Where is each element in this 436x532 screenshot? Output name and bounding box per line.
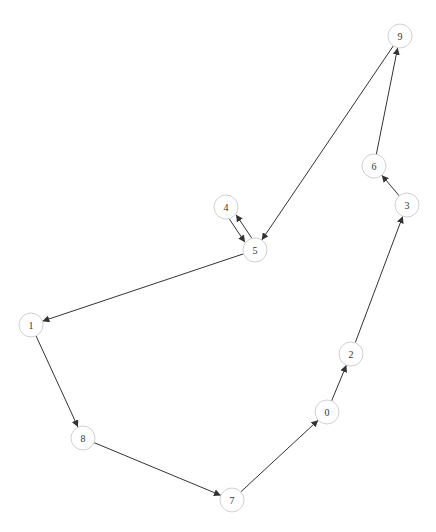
edge-5-to-1 xyxy=(42,254,243,321)
node-9: 9 xyxy=(388,24,412,48)
edge-4-to-5 xyxy=(229,219,245,242)
node-label: 3 xyxy=(405,200,410,211)
node-1: 1 xyxy=(19,313,43,337)
node-2: 2 xyxy=(339,342,363,366)
node-label: 7 xyxy=(230,495,235,506)
node-label: 2 xyxy=(349,349,354,360)
edge-9-to-5 xyxy=(262,46,394,240)
node-6: 6 xyxy=(362,154,386,178)
node-3: 3 xyxy=(395,193,419,217)
edge-5-to-4 xyxy=(236,215,252,238)
node-8: 8 xyxy=(71,426,95,450)
node-label: 1 xyxy=(29,320,34,331)
node-0: 0 xyxy=(315,400,339,424)
node-label: 9 xyxy=(398,31,403,42)
edges-layer xyxy=(36,46,403,495)
node-label: 0 xyxy=(325,407,330,418)
edge-1-to-8 xyxy=(36,336,78,427)
node-label: 8 xyxy=(81,433,86,444)
edge-8-to-7 xyxy=(94,443,221,496)
node-label: 4 xyxy=(224,202,229,213)
edge-2-to-3 xyxy=(355,216,403,343)
node-label: 6 xyxy=(372,161,377,172)
edge-6-to-9 xyxy=(376,48,397,154)
node-7: 7 xyxy=(220,488,244,512)
edge-3-to-6 xyxy=(382,175,399,196)
node-5: 5 xyxy=(243,238,267,262)
node-4: 4 xyxy=(214,195,238,219)
edge-0-to-2 xyxy=(332,365,347,401)
edge-7-to-0 xyxy=(241,420,318,492)
node-label: 5 xyxy=(253,245,258,256)
graph-canvas: 0123456789 xyxy=(0,0,436,532)
